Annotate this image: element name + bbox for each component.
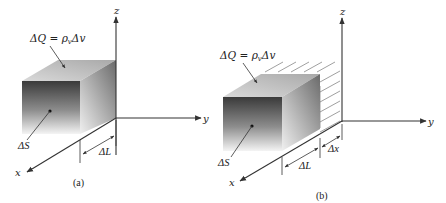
cube-front-face (223, 97, 282, 151)
z-axis-label: z (113, 5, 120, 16)
panel-b-caption: (b) (316, 190, 328, 202)
x-axis-label: x (229, 177, 235, 188)
x-axis-label: x (15, 167, 21, 178)
charge-leader-arrow (243, 63, 257, 83)
length-label: ΔL (98, 146, 111, 157)
volume-element-cube (223, 74, 320, 151)
charge-element-diagram: z y x ΔQ = ρvΔv ΔS ΔL (a) (0, 0, 446, 203)
surface-label: ΔS (217, 157, 230, 168)
volume-element-cube (22, 60, 116, 134)
panel-a-caption: (a) (73, 177, 84, 189)
charge-label: ΔQ = ρvΔv (219, 49, 275, 63)
panel-b: z y x ΔQ = ρvΔv ΔS ΔL Δx (b) (217, 6, 434, 202)
cube-front-face (22, 81, 80, 134)
length-label: ΔL (298, 160, 311, 171)
charge-label: ΔQ = ρvΔv (29, 32, 85, 46)
surface-label: ΔS (17, 140, 30, 151)
panel-a: z y x ΔQ = ρvΔv ΔS ΔL (a) (15, 5, 209, 189)
displacement-label: Δx (327, 143, 339, 154)
z-axis-label: z (339, 6, 346, 17)
y-axis-label: y (202, 113, 209, 124)
y-axis-label: y (427, 116, 434, 127)
